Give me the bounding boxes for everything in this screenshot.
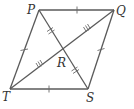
diagonal-ps bbox=[39, 10, 88, 89]
rhombus-diagram: P Q R S T bbox=[0, 0, 134, 109]
label-q: Q bbox=[116, 4, 126, 18]
label-r: R bbox=[56, 56, 66, 70]
label-t: T bbox=[2, 90, 11, 104]
label-s: S bbox=[86, 91, 94, 105]
label-p: P bbox=[26, 3, 36, 17]
